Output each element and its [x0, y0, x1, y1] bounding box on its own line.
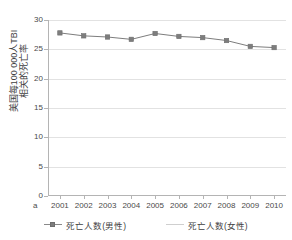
legend-entry-female[interactable]: 死亡人数(女性) — [166, 219, 248, 231]
male-series-point[interactable] — [177, 34, 181, 38]
male-series-point[interactable] — [248, 44, 252, 48]
series-layer — [48, 20, 286, 196]
male-series-point[interactable] — [129, 37, 133, 41]
y-axis-tick-label: 30 — [21, 15, 43, 24]
x-axis-tick-mark — [179, 196, 180, 199]
y-axis-tick-label: 15 — [21, 103, 43, 112]
x-axis-tick-mark — [250, 196, 251, 199]
x-axis-tick-mark — [108, 196, 109, 199]
x-axis-tick-mark — [60, 196, 61, 199]
x-axis-tick-mark — [84, 196, 85, 199]
male-series-point[interactable] — [272, 45, 276, 49]
x-axis-tick-mark — [227, 196, 228, 199]
legend-swatch-male-icon — [44, 221, 62, 229]
male-series-point[interactable] — [201, 35, 205, 39]
legend-label-female: 死亡人数(女性) — [188, 219, 248, 231]
y-axis-tick-label: 10 — [21, 132, 43, 141]
x-axis-tick-mark — [131, 196, 132, 199]
y-axis-tick-label: 0 — [21, 191, 43, 200]
x-axis-tick-label: 2010 — [257, 201, 291, 210]
legend-label-male: 死亡人数(男性) — [66, 219, 126, 231]
male-series-point[interactable] — [153, 31, 157, 35]
male-series-point[interactable] — [105, 35, 109, 39]
chart-legend: 死亡人数(男性) 死亡人数(女性) — [0, 219, 292, 231]
x-axis-tick-mark — [203, 196, 204, 199]
male-series-point[interactable] — [224, 38, 228, 42]
legend-swatch-female-icon — [166, 221, 184, 229]
y-axis-tick-label: 20 — [21, 74, 43, 83]
x-axis-tick-mark — [274, 196, 275, 199]
male-series-line — [60, 33, 274, 48]
y-axis-tick-label: 25 — [21, 44, 43, 53]
y-axis-tick-mark — [44, 196, 48, 197]
male-series-point[interactable] — [82, 34, 86, 38]
chart-figure: 美国每100 000人TBI 相关的死亡率 051015202530 20012… — [0, 0, 292, 240]
series-male — [58, 31, 277, 50]
male-series-point[interactable] — [58, 31, 62, 35]
x-axis-tick-mark — [155, 196, 156, 199]
legend-entry-male[interactable]: 死亡人数(男性) — [44, 219, 126, 231]
y-axis-title-line-1: 美国每100 000人TBI — [9, 30, 19, 113]
y-axis-tick-label: 5 — [21, 162, 43, 171]
y-axis-title: 美国每100 000人TBI 相关的死亡率 — [6, 5, 32, 137]
x-axis-unit-label: a — [33, 201, 37, 210]
